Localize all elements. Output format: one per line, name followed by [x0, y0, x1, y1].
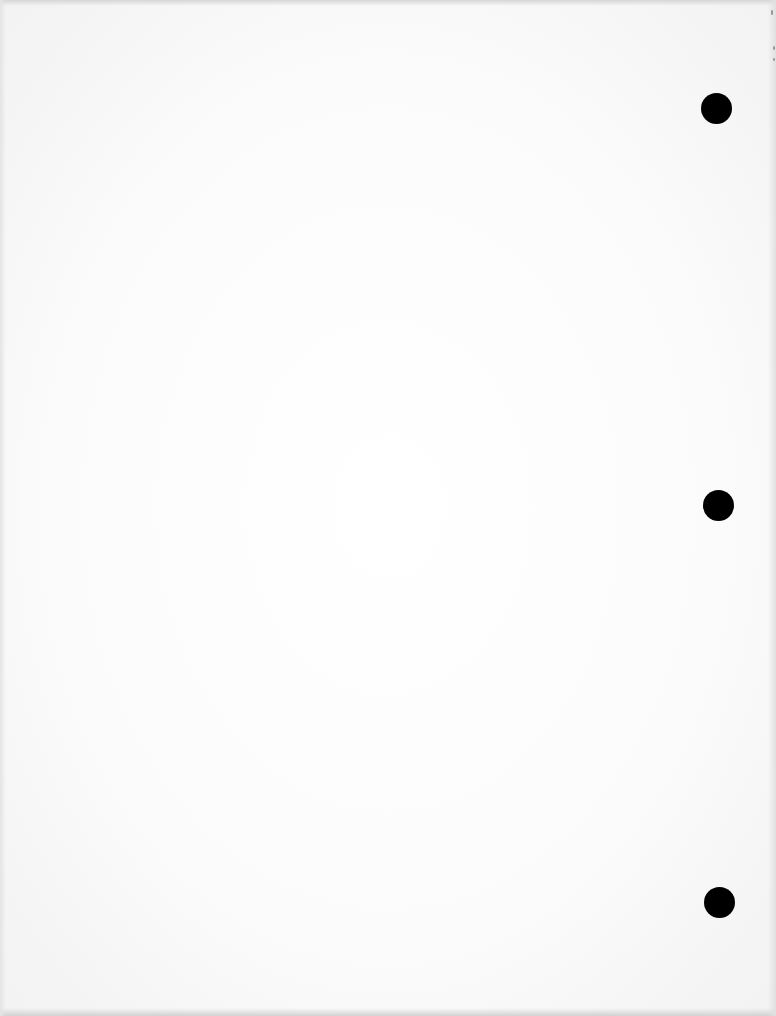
scan-speck — [771, 10, 773, 15]
scan-edge-bottom — [0, 1008, 776, 1016]
hole-punch-top — [701, 93, 732, 124]
scan-edge-right — [768, 0, 776, 1016]
scan-speck — [773, 58, 775, 61]
scan-speck — [773, 46, 775, 50]
scan-edge-left — [0, 0, 6, 1016]
blank-page — [0, 0, 776, 1016]
scan-edge-top — [0, 0, 776, 6]
hole-punch-middle — [703, 490, 734, 521]
hole-punch-bottom — [704, 887, 735, 918]
